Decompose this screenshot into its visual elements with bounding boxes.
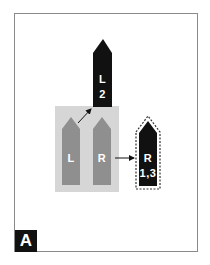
right-target-label-line1: R	[139, 152, 157, 165]
top-target-label-line1: L	[93, 73, 112, 86]
left-arrow-label: L	[62, 152, 80, 165]
top-target-label-line2: 2	[93, 88, 112, 101]
right-target-label-line2: 1,3	[136, 167, 160, 180]
left-gray-arrow-shape	[62, 117, 80, 185]
connector-left-to-top	[78, 109, 91, 123]
right-arrow-label: R	[93, 152, 111, 165]
diagram-shapes	[0, 0, 210, 265]
right-gray-arrow-shape	[93, 117, 111, 185]
panel-label-badge: A	[15, 230, 37, 252]
